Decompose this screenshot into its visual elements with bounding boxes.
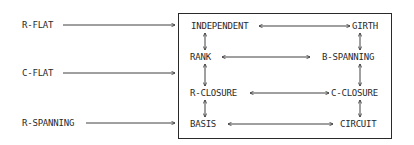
node-circuit: CIRCUIT <box>340 119 377 129</box>
node-c-closure: C-CLOSURE <box>331 88 378 98</box>
label-r-flat: R-FLAT <box>22 20 53 30</box>
label-r-spanning: R-SPANNING <box>22 118 74 128</box>
node-girth: GIRTH <box>352 21 378 31</box>
node-rank: RANK <box>190 52 211 62</box>
node-b-spanning: B-SPANNING <box>322 52 374 62</box>
node-basis: BASIS <box>190 119 216 129</box>
matroid-axiom-diagram: R-FLAT C-FLAT R-SPANNING INDEPENDENT RAN… <box>0 0 414 145</box>
label-c-flat: C-FLAT <box>22 68 53 78</box>
node-r-closure: R-CLOSURE <box>190 88 237 98</box>
node-independent: INDEPENDENT <box>191 21 248 31</box>
